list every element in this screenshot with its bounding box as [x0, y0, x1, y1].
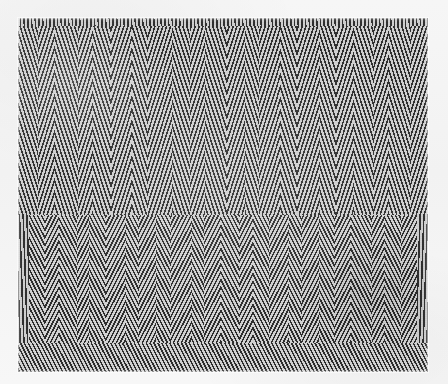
screen-cell	[319, 215, 334, 343]
screen-cell	[18, 215, 29, 343]
screen-cell	[106, 215, 126, 343]
screen-cell	[411, 18, 428, 215]
screen-cell	[18, 18, 38, 215]
screen-cell	[45, 215, 59, 343]
screen-cell	[205, 18, 227, 215]
screen-cell	[334, 215, 351, 343]
screen-cell	[18, 18, 428, 26]
screen-cell	[297, 18, 320, 215]
screen-cell	[302, 215, 320, 343]
screen-cell	[89, 215, 106, 343]
screen-cell	[384, 215, 402, 343]
screen-cell	[389, 18, 411, 215]
screen-cell	[190, 18, 205, 215]
screen-cell	[280, 18, 297, 215]
lower-chevron-band	[18, 215, 428, 343]
screen-cell	[29, 215, 45, 343]
screenshot-canvas	[0, 0, 448, 384]
screen-cell	[78, 18, 92, 215]
screen-cell	[354, 18, 374, 215]
top-strip-cell-row	[18, 18, 428, 26]
screen-cell	[77, 215, 89, 343]
screen-cell	[259, 18, 280, 215]
screen-cell	[139, 215, 157, 343]
screen-cell	[253, 215, 269, 343]
screen-cell	[351, 215, 372, 343]
screen-cell	[55, 18, 78, 215]
screen-cell	[132, 18, 148, 215]
screen-cell	[171, 215, 192, 343]
screen-cell	[59, 215, 78, 343]
screen-cell	[239, 215, 253, 343]
screen-cell	[172, 18, 190, 215]
screen-cell	[227, 18, 246, 215]
screen-cell	[204, 215, 221, 343]
screen-cell	[417, 215, 428, 343]
screen-cell	[126, 215, 139, 343]
bottom-strip-cell-row	[18, 343, 428, 372]
screen-cell	[221, 215, 240, 343]
screen-cell	[148, 18, 172, 215]
screen-cell	[336, 18, 354, 215]
screen-cell	[401, 215, 417, 343]
screen-cell	[92, 18, 111, 215]
screen-cell	[374, 18, 389, 215]
upper-band-cell-row	[18, 18, 428, 215]
bottom-edge-strip	[18, 343, 428, 372]
screen-cell	[289, 215, 302, 343]
zigzag-line-screen-plate	[18, 18, 428, 372]
screen-cell	[320, 18, 336, 215]
lower-band-cell-row	[18, 215, 428, 343]
screen-cell	[18, 343, 428, 372]
top-edge-strip	[18, 18, 428, 26]
screen-cell	[269, 215, 289, 343]
screen-cell	[372, 215, 384, 343]
screen-cell	[192, 215, 204, 343]
upper-chevron-band	[18, 18, 428, 215]
screen-cell	[245, 18, 259, 215]
screen-cell	[156, 215, 171, 343]
screen-cell	[111, 18, 132, 215]
screen-cell	[38, 18, 55, 215]
